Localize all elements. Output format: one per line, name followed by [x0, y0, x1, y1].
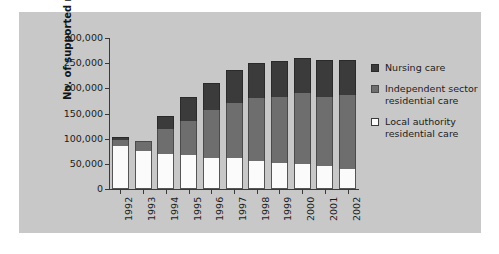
bar-stack: [157, 116, 174, 189]
bar-segment-independent-sector: [157, 129, 174, 154]
bar-segment-local-authority: [339, 169, 356, 189]
bar-segment-local-authority: [294, 164, 311, 189]
y-tick-mark: [105, 164, 109, 165]
y-axis-title: No. of supported residents: [62, 0, 73, 100]
bar-segment-independent-sector: [271, 97, 288, 162]
bar-segment-independent-sector: [135, 141, 152, 151]
chart-legend: Nursing careIndependent sector residenti…: [371, 62, 496, 149]
legend-swatch-local-icon: [371, 118, 379, 126]
y-tick-mark: [105, 38, 109, 39]
legend-label: Local authority residential care: [385, 116, 496, 140]
x-tick-label: 2002: [352, 197, 362, 221]
legend-swatch-independent-icon: [371, 85, 379, 93]
bar-segment-local-authority: [180, 155, 197, 189]
bar-segment-independent-sector: [248, 98, 265, 160]
legend-swatch-nursing-icon: [371, 64, 379, 72]
bar-stack: [203, 83, 220, 189]
bar-segment-local-authority: [271, 163, 288, 189]
y-tick-label: 100,000: [64, 133, 103, 144]
bar-segment-nursing-care: [271, 61, 288, 98]
chart-panel: 050,000100,000150,000200,000250,000300,0…: [19, 12, 481, 233]
bar-segment-independent-sector: [180, 121, 197, 155]
bar-stack: [271, 61, 288, 189]
x-tick-mark: [234, 190, 235, 194]
legend-item: Nursing care: [371, 62, 496, 74]
y-tick-mark: [105, 88, 109, 89]
bar-segment-nursing-care: [248, 63, 265, 98]
y-tick-mark: [105, 139, 109, 140]
plot-area: 050,000100,000150,000200,000250,000300,0…: [109, 38, 359, 189]
x-tick-label: 1997: [238, 197, 248, 221]
bar-segment-independent-sector: [226, 103, 243, 158]
x-tick-label: 1995: [193, 197, 203, 221]
y-axis-line: [109, 38, 110, 190]
y-tick-mark: [105, 63, 109, 64]
bar-segment-nursing-care: [157, 116, 174, 129]
bar-segment-independent-sector: [316, 97, 333, 166]
x-tick-label: 2001: [329, 197, 339, 221]
bar-segment-nursing-care: [203, 83, 220, 110]
y-tick-label: 0: [97, 183, 103, 194]
y-tick-mark: [105, 114, 109, 115]
x-tick-mark: [325, 190, 326, 194]
bar-segment-nursing-care: [226, 70, 243, 103]
y-tick-mark: [105, 189, 109, 190]
legend-label: Independent sector residential care: [385, 83, 496, 107]
x-tick-mark: [302, 190, 303, 194]
bar-segment-nursing-care: [316, 60, 333, 97]
x-tick-label: 2000: [306, 197, 316, 221]
bar-stack: [135, 141, 152, 189]
x-tick-mark: [257, 190, 258, 194]
bar-segment-local-authority: [112, 146, 129, 189]
bar-stack: [226, 70, 243, 189]
legend-label: Nursing care: [385, 62, 445, 74]
bar-stack: [294, 58, 311, 189]
bar-segment-nursing-care: [294, 58, 311, 94]
bar-segment-independent-sector: [203, 110, 220, 158]
bar-segment-local-authority: [203, 158, 220, 189]
bar-stack: [112, 137, 129, 189]
bar-segment-nursing-care: [180, 97, 197, 121]
x-tick-mark: [143, 190, 144, 194]
x-tick-mark: [279, 190, 280, 194]
y-tick-label: 50,000: [70, 158, 103, 169]
y-tick-label: 150,000: [64, 108, 103, 119]
bar-segment-local-authority: [226, 158, 243, 189]
bar-segment-independent-sector: [294, 93, 311, 163]
x-tick-mark: [120, 190, 121, 194]
x-tick-mark: [211, 190, 212, 194]
legend-item: Independent sector residential care: [371, 83, 496, 107]
x-tick-label: 1994: [170, 197, 180, 221]
bar-segment-local-authority: [135, 151, 152, 189]
bar-segment-local-authority: [316, 166, 333, 189]
x-tick-mark: [348, 190, 349, 194]
bar-segment-independent-sector: [339, 95, 356, 169]
bar-stack: [339, 60, 356, 189]
chart-figure: 050,000100,000150,000200,000250,000300,0…: [0, 0, 499, 254]
x-tick-label: 1996: [215, 197, 225, 221]
bar-segment-local-authority: [157, 154, 174, 189]
bar-stack: [316, 60, 333, 189]
x-tick-label: 1993: [147, 197, 157, 221]
bar-segment-nursing-care: [339, 60, 356, 96]
bar-segment-local-authority: [248, 161, 265, 189]
x-tick-label: 1999: [283, 197, 293, 221]
bar-stack: [248, 63, 265, 189]
x-tick-label: 1992: [124, 197, 134, 221]
x-tick-mark: [166, 190, 167, 194]
x-tick-mark: [189, 190, 190, 194]
bar-stack: [180, 97, 197, 189]
x-tick-label: 1998: [261, 197, 271, 221]
legend-item: Local authority residential care: [371, 116, 496, 140]
